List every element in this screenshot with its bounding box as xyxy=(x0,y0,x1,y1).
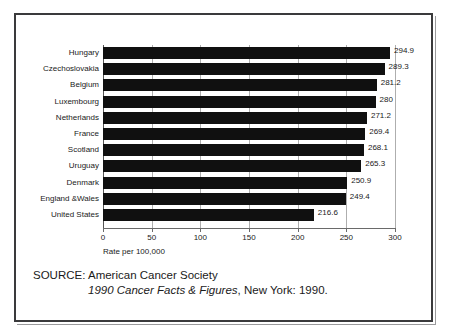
bar-value-label: 294.9 xyxy=(394,45,414,57)
category-label: England &Wales xyxy=(40,193,99,205)
bar[interactable] xyxy=(103,96,376,108)
bar-value-label: 269.4 xyxy=(369,126,389,138)
bar-value-label: 280 xyxy=(380,94,393,106)
bar[interactable] xyxy=(103,47,390,59)
category-label: Czechoslovakia xyxy=(43,63,99,75)
bar-value-label: 216.6 xyxy=(318,207,338,219)
source-line-1: SOURCE: American Cancer Society xyxy=(33,268,413,283)
bar[interactable] xyxy=(103,177,347,189)
x-tick xyxy=(395,228,396,232)
chart-page: HungaryCzechoslovakiaBelgiumLuxembourgNe… xyxy=(0,0,453,335)
bar-value-label: 250.9 xyxy=(351,175,371,187)
bar-row: 281.2 xyxy=(103,79,395,91)
x-tick-label: 100 xyxy=(194,233,207,243)
x-tick xyxy=(200,228,201,232)
bar-row: 249.4 xyxy=(103,193,395,205)
category-label: Scotland xyxy=(68,144,99,156)
bar[interactable] xyxy=(103,63,385,75)
bar-row: 216.6 xyxy=(103,209,395,221)
bar-value-label: 271.2 xyxy=(371,110,391,122)
bar[interactable] xyxy=(103,160,361,172)
category-label: United States xyxy=(51,209,99,221)
bar-value-label: 249.4 xyxy=(350,191,370,203)
x-tick-label: 300 xyxy=(388,233,401,243)
x-tick-label: 50 xyxy=(147,233,156,243)
bar-row: 289.3 xyxy=(103,63,395,75)
bar[interactable] xyxy=(103,144,364,156)
x-axis-title: Rate per 100,000 xyxy=(103,247,165,257)
plot-area: 294.9289.3281.2280271.2269.4268.1265.325… xyxy=(103,45,395,228)
source-note: SOURCE: American Cancer Society 1990 Can… xyxy=(33,268,413,298)
category-label: France xyxy=(74,128,99,140)
bar[interactable] xyxy=(103,209,314,221)
bar-row: 250.9 xyxy=(103,177,395,189)
x-tick xyxy=(249,228,250,232)
x-tick-label: 150 xyxy=(242,233,255,243)
x-tick-label: 200 xyxy=(291,233,304,243)
bar-row: 280 xyxy=(103,96,395,108)
bar-row: 268.1 xyxy=(103,144,395,156)
category-label: Luxembourg xyxy=(55,96,99,108)
x-tick xyxy=(152,228,153,232)
bar-row: 294.9 xyxy=(103,47,395,59)
bar[interactable] xyxy=(103,193,346,205)
bar-row: 269.4 xyxy=(103,128,395,140)
bar[interactable] xyxy=(103,112,367,124)
bar-value-label: 268.1 xyxy=(368,142,388,154)
category-label: Uruguay xyxy=(69,160,99,172)
bar-value-label: 289.3 xyxy=(389,61,409,73)
category-label: Belgium xyxy=(70,79,99,91)
x-tick xyxy=(298,228,299,232)
category-label: Denmark xyxy=(67,177,99,189)
category-label: Hungary xyxy=(69,47,99,59)
category-label: Netherlands xyxy=(56,112,99,124)
bar-value-label: 281.2 xyxy=(381,77,401,89)
bar[interactable] xyxy=(103,79,377,91)
source-line-2: 1990 Cancer Facts & Figures, New York: 1… xyxy=(88,283,413,298)
x-tick-label: 250 xyxy=(340,233,353,243)
bar[interactable] xyxy=(103,128,365,140)
x-tick xyxy=(346,228,347,232)
x-tick xyxy=(103,228,104,232)
source-publication-rest: , New York: 1990. xyxy=(238,284,328,296)
source-publication-title: 1990 Cancer Facts & Figures xyxy=(88,284,238,296)
x-tick-label: 0 xyxy=(101,233,105,243)
bar-row: 271.2 xyxy=(103,112,395,124)
category-axis-labels: HungaryCzechoslovakiaBelgiumLuxembourgNe… xyxy=(18,45,99,228)
bar-row: 265.3 xyxy=(103,160,395,172)
bar-value-label: 265.3 xyxy=(365,158,385,170)
